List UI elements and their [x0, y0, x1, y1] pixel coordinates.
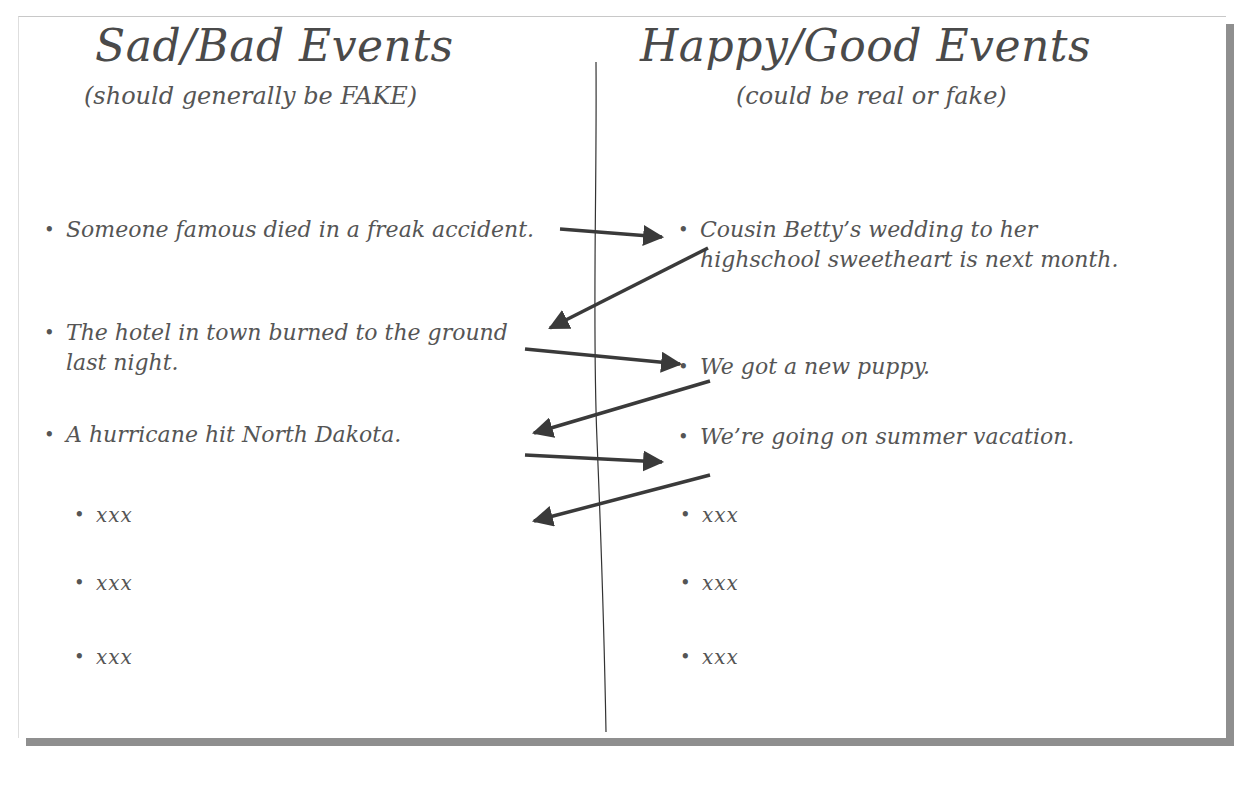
left-list-item: • xxx	[96, 568, 133, 598]
left-list-item: • xxx	[96, 642, 133, 672]
right-list-item: • xxx	[702, 500, 739, 530]
bullet-icon: •	[678, 215, 689, 245]
bullet-icon: •	[680, 642, 692, 672]
bullet-icon: •	[74, 500, 86, 530]
right-list-item: • We got a new puppy.	[700, 352, 1180, 382]
bullet-icon: •	[680, 500, 692, 530]
right-column-subtitle: (could be real or fake)	[736, 82, 1007, 110]
bullet-icon: •	[678, 422, 689, 452]
right-list-item: • xxx	[702, 642, 739, 672]
bullet-icon: •	[44, 318, 55, 348]
right-column-title: Happy/Good Events	[640, 20, 1091, 71]
bullet-icon: •	[44, 420, 55, 450]
bullet-icon: •	[680, 568, 692, 598]
left-column-title: Sad/Bad Events	[95, 20, 454, 71]
bullet-icon: •	[678, 352, 689, 382]
bullet-icon: •	[44, 215, 55, 245]
right-list-item: • We’re going on summer vacation.	[700, 422, 1200, 452]
left-column-subtitle: (should generally be FAKE)	[84, 82, 417, 110]
left-list-item: • Someone famous died in a freak acciden…	[66, 215, 546, 245]
bullet-icon: •	[74, 642, 86, 672]
left-list-item: • A hurricane hit North Dakota.	[66, 420, 546, 450]
left-list-item: • The hotel in town burned to the ground…	[66, 318, 536, 378]
left-list-item: • xxx	[96, 500, 133, 530]
right-list-item: • xxx	[702, 568, 739, 598]
right-list-item: • Cousin Betty’s wedding to her highscho…	[700, 215, 1140, 275]
bullet-icon: •	[74, 568, 86, 598]
